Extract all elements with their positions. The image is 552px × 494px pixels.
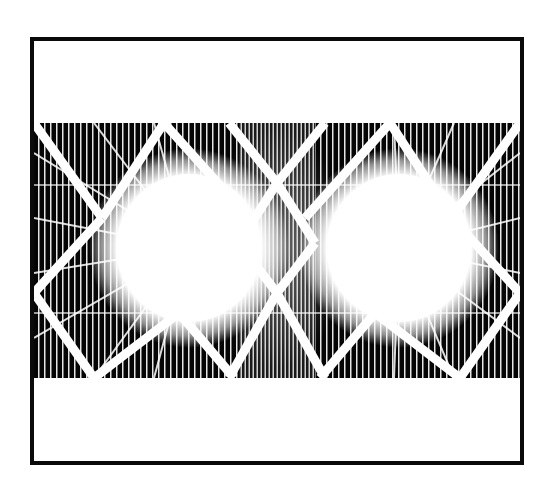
lattice-band <box>34 123 520 378</box>
lattice-artwork <box>34 123 520 378</box>
